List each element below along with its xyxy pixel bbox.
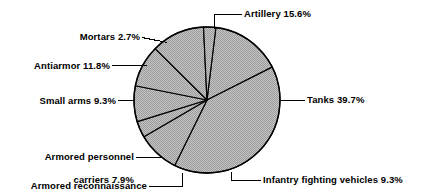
pie-chart-figure: Artillery 15.6% Tanks 39.7% Infantry fig…	[0, 0, 433, 196]
slice-label-armored-personnel-carriers: Armored personnel carriers 7.9%	[4, 139, 134, 196]
leader-line-armored-recon-vehicles	[149, 173, 183, 187]
slice-label-antiarmor: Antiarmor 11.8%	[0, 60, 110, 72]
leader-line-artillery	[215, 15, 243, 29]
slice-label-mortars: Mortars 2.7%	[30, 31, 140, 43]
slice-label-armored-personnel-line2: carriers 7.9%	[74, 174, 134, 185]
slice-label-infantry-fighting-vehicles: Infantry fighting vehicles 9.3%	[263, 174, 403, 186]
slice-label-small-arms: Small arms 9.3%	[6, 95, 116, 107]
leader-line-infantry-fighting-vehicles	[232, 172, 262, 181]
slice-label-armored-personnel-line1: Armored personnel	[45, 151, 134, 162]
slice-label-tanks: Tanks 39.7%	[307, 94, 364, 106]
slice-label-artillery: Artillery 15.6%	[244, 8, 311, 20]
pie-slices-group	[134, 27, 280, 173]
leader-line-mortars	[142, 38, 168, 43]
